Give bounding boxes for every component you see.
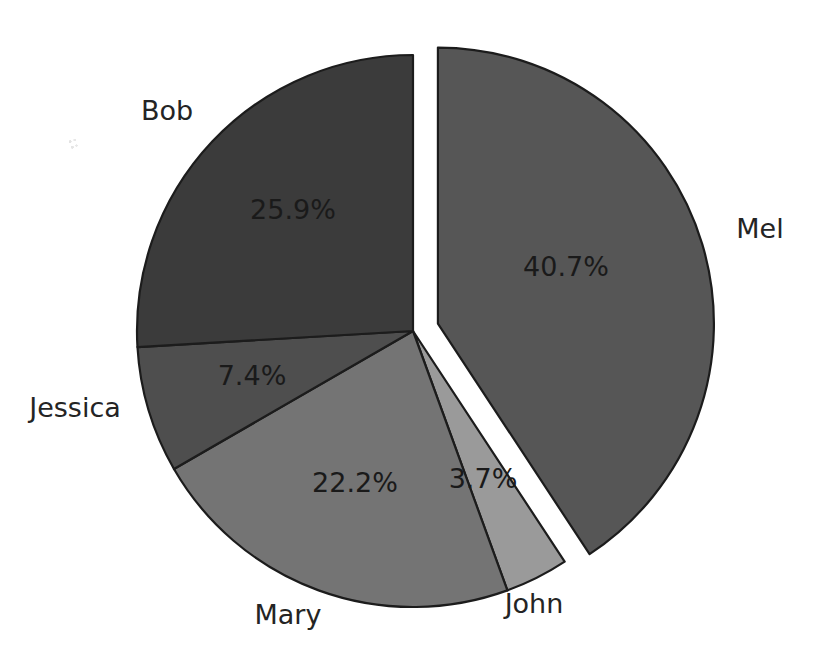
pie-chart-canvas: 40.7%3.7%22.2%7.4%25.9% MelJohnMaryJessi… xyxy=(0,0,813,654)
pie-category-label-bob: Bob xyxy=(141,95,193,126)
pie-percent-label-mary: 22.2% xyxy=(312,467,398,498)
pie-percent-label-jessica: 7.4% xyxy=(218,360,287,391)
pie-category-label-mary: Mary xyxy=(255,599,322,630)
pie-category-label-john: John xyxy=(503,588,564,619)
pie-percent-label-mel: 40.7% xyxy=(523,251,609,282)
pie-percent-label-bob: 25.9% xyxy=(250,194,336,225)
pie-category-label-mel: Mel xyxy=(736,213,783,244)
pie-percent-label-john: 3.7% xyxy=(449,463,518,494)
pie-slices-group xyxy=(137,48,714,607)
pie-chart: 40.7%3.7%22.2%7.4%25.9% MelJohnMaryJessi… xyxy=(0,0,813,654)
pie-category-label-jessica: Jessica xyxy=(27,392,121,423)
